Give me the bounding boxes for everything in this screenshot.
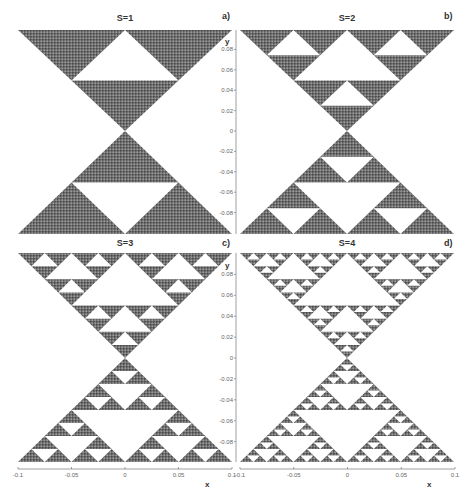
x-axis-label-right: x (427, 480, 431, 489)
y-tick-label: 0.08 (221, 46, 233, 52)
panel-d-label: d) (444, 238, 453, 248)
y-tick-label: 0.02 (221, 108, 233, 114)
x-tick-label: 0 (123, 472, 126, 478)
x-tick-label: 0 (346, 472, 349, 478)
y-tick-label: 0.04 (221, 313, 233, 319)
panel-a-title: S=1 (117, 13, 133, 23)
y-tick-label: -0.04 (219, 397, 233, 403)
y-tick-label: -0.08 (219, 439, 233, 445)
y-tick-label: 0 (230, 355, 233, 361)
x-tick-label: -0.05 (65, 472, 79, 478)
y-tick-label: -0.02 (219, 148, 233, 154)
y-tick-label: -0.02 (219, 376, 233, 382)
panel-b-label: b) (444, 11, 453, 21)
y-tick-label: 0 (230, 128, 233, 134)
y-axis-label-bottom: y (225, 261, 229, 270)
x-axis-label-left: x (205, 480, 209, 489)
y-tick-label: 0.06 (221, 292, 233, 298)
x-tick-label: -0.05 (287, 472, 301, 478)
y-tick-label: -0.06 (219, 189, 233, 195)
y-tick-label: 0.02 (221, 334, 233, 340)
x-tick-label: -0.1 (13, 472, 23, 478)
x-tick-label: 0.05 (395, 472, 407, 478)
y-tick-label: 0.08 (221, 271, 233, 277)
y-tick-label: -0.04 (219, 169, 233, 175)
panel-b-title: S=2 (339, 13, 355, 23)
x-tick-label: -0.1 (235, 472, 245, 478)
figure: S=1 a) S=2 b) S=3 c) S=4 d) y 0.080.060.… (0, 0, 474, 493)
x-tick-label: 0.05 (173, 472, 185, 478)
y-tick-label: 0.04 (221, 87, 233, 93)
fractal-plot-canvas (0, 0, 474, 493)
panel-c-label: c) (222, 238, 230, 248)
y-tick-label: -0.08 (219, 210, 233, 216)
y-tick-label: -0.06 (219, 418, 233, 424)
y-tick-label: 0.06 (221, 67, 233, 73)
panel-c-title: S=3 (117, 238, 133, 248)
y-axis-label-top: y (225, 37, 229, 46)
panel-d-title: S=4 (339, 238, 355, 248)
x-tick-label: 0.1 (451, 472, 459, 478)
panel-a-label: a) (222, 11, 230, 21)
